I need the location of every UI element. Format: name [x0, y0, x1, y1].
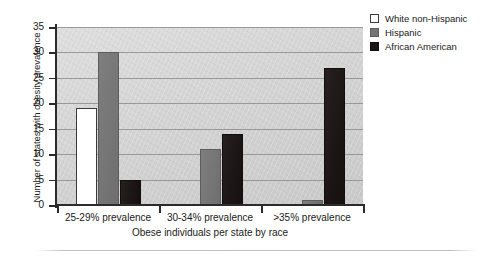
x-axis-title: Obese individuals per state by race [57, 227, 363, 238]
legend-item-african-american: African American [370, 40, 496, 53]
legend-item-label: White non-Hispanic [385, 14, 467, 24]
y-tick [49, 129, 56, 131]
y-tick [49, 103, 56, 105]
y-tick-label: 25 [16, 73, 44, 83]
y-tick [49, 154, 56, 156]
bar [222, 134, 243, 205]
y-tick-label-wrap: 30 [14, 47, 44, 57]
bar [324, 68, 345, 205]
y-tick-label: 15 [16, 124, 44, 134]
y-tick-label-wrap: 5 [14, 175, 44, 185]
bar [120, 180, 141, 205]
bar [200, 149, 221, 205]
gray-swatch-icon [370, 28, 379, 37]
y-tick [49, 78, 56, 80]
y-tick-label-wrap: 35 [14, 22, 44, 32]
y-tick [49, 180, 56, 182]
bar [98, 52, 119, 205]
black-swatch-icon [370, 42, 379, 51]
y-tick [49, 205, 56, 207]
y-tick-label-wrap: 15 [14, 124, 44, 134]
legend-item-white-non-hispanic: White non-Hispanic [370, 12, 496, 25]
white-swatch-icon [370, 14, 379, 23]
y-tick-label-wrap: 0 [14, 200, 44, 210]
x-category-label: 25-29% prevalence [57, 212, 159, 223]
bar-chart-figure: Number of states with obesity prevalence… [0, 0, 498, 259]
x-axis-line [55, 204, 365, 206]
y-tick-label-wrap: 25 [14, 73, 44, 83]
y-tick-label-wrap: 20 [14, 98, 44, 108]
footer-divider [36, 250, 476, 251]
chart-legend: White non-Hispanic Hispanic African Amer… [370, 12, 496, 54]
x-tick [363, 206, 365, 213]
gridline [57, 27, 363, 28]
plot-area [57, 27, 363, 205]
y-tick-label-wrap: 10 [14, 149, 44, 159]
y-tick [49, 52, 56, 54]
y-tick-label: 10 [16, 149, 44, 159]
legend-item-label: Hispanic [385, 28, 421, 38]
legend-item-label: African American [385, 42, 457, 52]
bar [76, 108, 97, 205]
y-tick-label: 0 [16, 200, 44, 210]
x-category-label: >35% prevalence [261, 212, 363, 223]
y-tick-label: 20 [16, 98, 44, 108]
legend-item-hispanic: Hispanic [370, 26, 496, 39]
x-category-label: 30-34% prevalence [159, 212, 261, 223]
y-tick-label: 5 [16, 175, 44, 185]
y-tick-label: 30 [16, 47, 44, 57]
y-tick-label: 35 [16, 22, 44, 32]
y-tick [49, 27, 56, 29]
